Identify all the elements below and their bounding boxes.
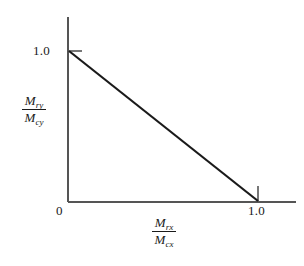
y-axis-label-denominator-symbol: M bbox=[25, 110, 36, 125]
y-axis-label: Mry Mcy bbox=[6, 94, 62, 125]
y-axis-label-numerator-symbol: M bbox=[25, 93, 36, 108]
origin-label: 0 bbox=[56, 203, 63, 219]
y-axis-label-numerator: Mry bbox=[22, 94, 47, 109]
x-axis-label-denominator-symbol: M bbox=[155, 232, 166, 247]
y-axis-label-fraction: Mry Mcy bbox=[22, 94, 47, 125]
y-axis-tick-label-1: 1.0 bbox=[33, 43, 50, 59]
x-axis-label-numerator-subscript: rx bbox=[166, 222, 174, 232]
x-axis-label-fraction: Mrx Mcx bbox=[152, 216, 177, 247]
x-axis-tick-label-1: 1.0 bbox=[248, 203, 265, 219]
x-axis-label-denominator-subscript: cx bbox=[165, 239, 173, 249]
y-axis-label-numerator-subscript: ry bbox=[36, 100, 44, 110]
y-axis-label-denominator: Mcy bbox=[22, 110, 47, 125]
x-axis-label-denominator: Mcx bbox=[152, 232, 177, 247]
moment-interaction-diagram: 1.0 0 1.0 Mry Mcy Mrx Mcx bbox=[0, 0, 304, 266]
x-axis-label-numerator: Mrx bbox=[152, 216, 177, 231]
interaction-line bbox=[69, 51, 258, 201]
x-axis-label-numerator-symbol: M bbox=[155, 215, 166, 230]
x-axis-label: Mrx Mcx bbox=[134, 216, 194, 247]
y-axis-label-denominator-subscript: cy bbox=[35, 117, 43, 127]
